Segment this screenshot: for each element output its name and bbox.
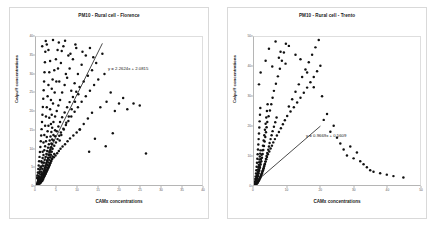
figure-root: PM10 - Rural cell - Florence Calpuff con…: [0, 0, 436, 231]
scatter-point: [66, 106, 68, 108]
scatter-point: [356, 151, 358, 153]
scatter-point: [46, 95, 48, 97]
scatter-point: [369, 169, 371, 171]
scatter-point: [89, 47, 91, 49]
scatter-point: [67, 120, 69, 122]
scatter-point: [65, 73, 67, 75]
scatter-point: [283, 51, 285, 53]
scatter-point: [257, 143, 259, 145]
scatter-point: [275, 83, 277, 85]
scatter-point: [93, 84, 95, 86]
scatter-point: [257, 170, 259, 172]
scatter-point: [66, 76, 68, 78]
scatter-point: [276, 134, 278, 136]
scatter-point: [79, 128, 81, 130]
scatter-point: [258, 158, 260, 160]
scatter-point: [269, 147, 271, 149]
scatter-point: [263, 163, 265, 165]
scatter-point: [72, 96, 74, 98]
scatter-point: [40, 128, 42, 130]
scatter-point: [268, 145, 270, 147]
scatter-point: [60, 50, 62, 52]
scatter-point: [47, 146, 49, 148]
scatter-point: [259, 155, 261, 157]
scatter-point: [69, 52, 71, 54]
scatter-point: [70, 115, 72, 117]
scatter-point: [58, 41, 60, 43]
scatter-point: [73, 82, 75, 84]
scatter-point: [104, 145, 106, 147]
scatter-point: [91, 69, 93, 71]
scatter-point: [256, 157, 258, 159]
scatter-point: [309, 81, 311, 83]
scatter-point: [259, 107, 261, 109]
scatter-point: [61, 116, 63, 118]
scatter-point: [352, 157, 354, 159]
scatter-point: [50, 123, 52, 125]
scatter-point: [362, 163, 364, 165]
scatter-point: [64, 39, 66, 41]
scatter-point: [85, 95, 87, 97]
scatter-point: [299, 58, 301, 60]
scatter-point: [313, 86, 315, 88]
scatter-point: [112, 132, 114, 134]
scatter-point: [296, 101, 298, 103]
scatter-point: [294, 54, 296, 56]
scatter-point: [49, 60, 51, 62]
scatter-point: [51, 155, 53, 157]
scatter-point: [392, 175, 394, 177]
scatter-point: [92, 56, 94, 58]
scatter-point: [304, 68, 306, 70]
scatter-point: [271, 96, 273, 98]
scatter-point: [114, 110, 116, 112]
scatter-point: [75, 47, 77, 49]
scatter-point: [105, 101, 107, 103]
scatter-point: [44, 125, 46, 127]
scatter-point: [264, 160, 266, 162]
scatter-point: [51, 150, 53, 152]
scatter-point: [308, 61, 310, 63]
scatter-point: [51, 138, 53, 140]
y-axis-title-florence: Calpuff concentrations: [14, 19, 20, 139]
scatter-point: [70, 89, 72, 91]
scatter-point: [342, 148, 344, 150]
scatter-point: [80, 101, 82, 103]
scatter-point: [59, 121, 61, 123]
scatter-point: [267, 149, 269, 151]
scatter-point: [259, 149, 261, 151]
scatter-point: [299, 96, 301, 98]
scatter-point: [57, 67, 59, 69]
scatter-point: [42, 106, 44, 108]
scatter-point: [80, 64, 82, 66]
scatter-point: [60, 134, 62, 136]
trendline: [36, 43, 102, 177]
scatter-point: [52, 134, 54, 136]
scatter-point: [265, 126, 267, 128]
scatter-point: [44, 61, 46, 63]
scatter-point: [51, 158, 53, 160]
scatter-point: [43, 80, 45, 82]
scatter-point: [319, 64, 321, 66]
scatter-point: [54, 115, 56, 117]
scatter-point: [41, 157, 43, 159]
scatter-point: [42, 141, 44, 143]
scatter-point: [41, 113, 43, 115]
scatter-point: [75, 91, 77, 93]
scatter-point: [47, 157, 49, 159]
scatter-point: [65, 122, 67, 124]
scatter-point: [306, 86, 308, 88]
scatter-point: [43, 168, 45, 170]
scatter-point: [265, 155, 267, 157]
scatter-point: [59, 148, 61, 150]
scatter-point: [47, 84, 49, 86]
scatter-point: [47, 49, 49, 51]
scatter-point: [37, 168, 39, 170]
scatter-point: [51, 113, 53, 115]
scatter-point: [263, 165, 265, 167]
scatter-point: [52, 121, 54, 123]
scatter-point: [89, 89, 91, 91]
scatter-point: [58, 139, 60, 141]
scatter-point: [316, 70, 318, 72]
scatter-point: [63, 111, 65, 113]
scatter-point: [379, 172, 381, 174]
